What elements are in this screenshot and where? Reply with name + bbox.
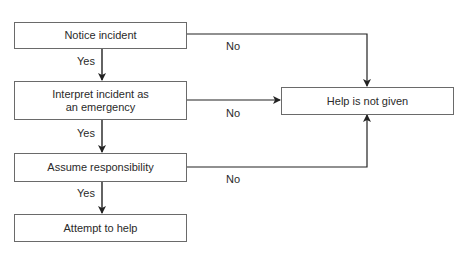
node-assume-responsibility: Assume responsibility: [14, 153, 187, 182]
arrow-assume-to-not-given: [187, 115, 367, 167]
edge-label-interpret-yes: Yes: [77, 127, 95, 139]
node-label: Help is not given: [327, 95, 408, 108]
node-attempt-to-help: Attempt to help: [14, 214, 187, 242]
node-label: Assume responsibility: [47, 161, 153, 174]
edge-label-assume-no: No: [226, 173, 240, 185]
node-label: Notice incident: [64, 29, 136, 42]
node-notice-incident: Notice incident: [14, 22, 187, 49]
edge-label-interpret-no: No: [226, 107, 240, 119]
node-label: Interpret incident as an emergency: [45, 88, 156, 114]
node-interpret-emergency: Interpret incident as an emergency: [14, 81, 187, 120]
node-help-not-given: Help is not given: [281, 87, 454, 115]
arrow-notice-to-not-given: [187, 34, 367, 86]
edge-label-notice-no: No: [226, 40, 240, 52]
node-label: Attempt to help: [64, 222, 138, 235]
edge-label-notice-yes: Yes: [77, 55, 95, 67]
edge-label-assume-yes: Yes: [77, 187, 95, 199]
